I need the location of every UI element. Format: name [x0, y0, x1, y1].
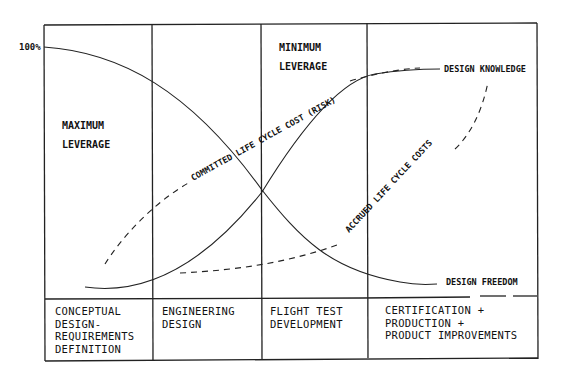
design-knowledge-label: DESIGN KNOWLEDGE — [444, 64, 526, 74]
phase-engineering-design: ENGINEERING DESIGN — [162, 305, 235, 330]
min-leverage-line2: LEVERAGE — [279, 61, 327, 72]
max-leverage-line1: MAXIMUM — [62, 120, 104, 131]
phase-conceptual-design: CONCEPTUAL DESIGN- REQUIREMENTS DEFINITI… — [55, 305, 134, 355]
accrued-cost-label: ACCRUED LIFE CYCLE COSTS — [343, 138, 434, 235]
committed-cost-curve — [105, 182, 190, 264]
committed-cost-label: COMMITTED LIFE CYCLE COST (RISK) — [189, 95, 337, 183]
max-leverage-line2: LEVERAGE — [62, 139, 110, 150]
design-freedom-label: DESIGN FREEDOM — [446, 277, 518, 287]
min-leverage-line1: MINIMUM — [279, 42, 321, 53]
y-axis-100-label: 100% — [19, 42, 41, 52]
phase-flight-test: FLIGHT TEST DEVELOPMENT — [270, 305, 343, 330]
design-knowledge-curve — [85, 69, 440, 288]
design-freedom-curve — [44, 47, 437, 285]
accrued-cost-curve-upper — [455, 82, 488, 149]
accrued-cost-curve — [180, 244, 340, 273]
phase-certification-production: CERTIFICATION + PRODUCTION + PRODUCT IMP… — [385, 304, 517, 342]
